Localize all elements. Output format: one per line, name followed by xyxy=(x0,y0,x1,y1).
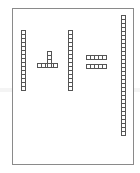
cube-cell xyxy=(121,131,126,136)
cube-cell xyxy=(102,64,107,69)
cube-cell xyxy=(21,86,26,91)
cube-cell xyxy=(68,86,73,91)
left-cube-rod xyxy=(21,30,26,90)
right-cube-rod xyxy=(121,15,126,135)
plus-sign-vertical xyxy=(47,51,52,67)
cube-cell xyxy=(102,55,107,60)
cube-cell xyxy=(47,63,52,68)
figure-frame xyxy=(12,8,134,165)
middle-cube-rod xyxy=(68,30,73,90)
equals-sign-top xyxy=(86,55,106,60)
cube-cell xyxy=(53,63,58,68)
equals-sign-bottom xyxy=(86,64,106,69)
